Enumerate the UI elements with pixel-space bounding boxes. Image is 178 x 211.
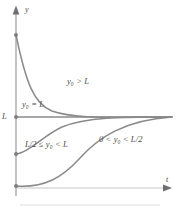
curve-label-equal-L: y₀ = L bbox=[22, 100, 44, 109]
solution-curves-figure: y t L y₀ > L y₀ = L L/2 ≤ y₀ < L 0 < y₀ … bbox=[0, 0, 178, 211]
initial-point-equal-L bbox=[14, 115, 18, 119]
curve-label-mid-range: L/2 ≤ y₀ < L bbox=[25, 140, 68, 149]
curve-low-range bbox=[16, 117, 172, 186]
curve-label-above-L: y₀ > L bbox=[67, 77, 89, 86]
curve-label-low-range: 0 < y₀ < L/2 bbox=[99, 135, 143, 144]
t-axis bbox=[16, 185, 172, 192]
initial-point-low-range bbox=[14, 184, 18, 188]
initial-point-above-L bbox=[14, 33, 18, 37]
equilibrium-tick-label-L: L bbox=[2, 112, 7, 121]
t-axis-arrowhead bbox=[163, 185, 172, 192]
t-axis-label: t bbox=[166, 176, 168, 184]
y-axis-arrowhead bbox=[13, 6, 20, 15]
y-axis-label: y bbox=[25, 6, 29, 14]
initial-point-mid-range bbox=[14, 152, 18, 156]
